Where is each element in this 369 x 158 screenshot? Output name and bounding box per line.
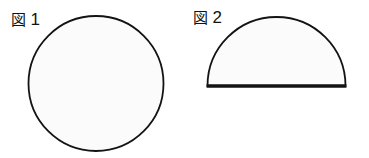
figure-1-block: 図1	[0, 0, 185, 158]
figure-1-label-word: 図	[11, 11, 27, 28]
figure-sheet: 図1 図2	[0, 0, 369, 158]
figure-2-label-number: 2	[213, 8, 223, 27]
figure-2-label: 図2	[193, 10, 222, 25]
figure-2-block: 図2	[185, 0, 369, 158]
figure-2-label-word: 図	[193, 9, 209, 26]
semicircle-shape	[208, 17, 346, 86]
figure-1-label: 図1	[11, 12, 40, 27]
circle-shape	[29, 16, 164, 151]
figure-1-label-number: 1	[31, 10, 41, 29]
